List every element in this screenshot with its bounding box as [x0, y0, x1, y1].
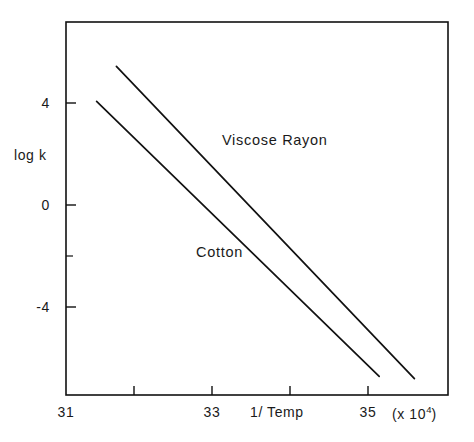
x-tick-label-33: 33: [204, 405, 221, 419]
x-axis-scale-note: (x 104): [392, 405, 437, 421]
y-tick-label-minus-4: -4: [10, 300, 50, 314]
series-lines: [97, 66, 415, 378]
y-tick-label-4: 4: [10, 96, 50, 110]
x-tick-label-35: 35: [360, 405, 377, 419]
plot-frame: [66, 22, 448, 395]
chart-figure: 4 0 -4 log k 31 33 35 1/ Temp (x 104) Vi…: [0, 0, 474, 442]
y-axis-title: log k: [14, 148, 47, 162]
y-tick-label-0: 0: [10, 198, 50, 212]
plot-canvas: [0, 0, 474, 442]
series-annotation-viscose-rayon: Viscose Rayon: [222, 133, 328, 148]
series-line-viscose-rayon: [116, 66, 414, 378]
x-axis-scale-note-base: (x 10: [392, 406, 426, 422]
series-annotation-cotton: Cotton: [196, 245, 243, 260]
x-tick-label-31: 31: [58, 405, 75, 419]
y-axis-ticks: [66, 103, 76, 307]
x-axis-title: 1/ Temp: [250, 405, 304, 419]
x-axis-scale-note-tail: ): [431, 406, 436, 422]
x-axis-ticks: [134, 386, 368, 395]
